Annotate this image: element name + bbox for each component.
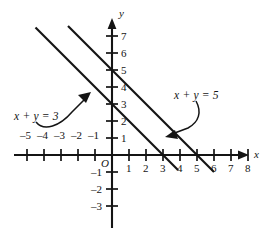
- x-tick-label-4: 4: [177, 163, 183, 174]
- x-tick-label--1: –1: [88, 130, 99, 141]
- annotation-arrowhead-left: [78, 92, 91, 103]
- x-tick-label-7: 7: [228, 163, 234, 174]
- y-tick-label-1: 1: [121, 133, 127, 144]
- y-tick-label--1: –1: [91, 167, 102, 178]
- y-tick-label-3: 3: [121, 99, 127, 110]
- x-tick-label--2: –2: [71, 130, 82, 141]
- x-tick-label-8: 8: [245, 163, 251, 174]
- x-tick-label-3: 3: [160, 163, 166, 174]
- x-tick-label-6: 6: [211, 163, 217, 174]
- annotation-arrow-right: [172, 101, 199, 134]
- x-tick-label--5: –5: [20, 130, 31, 141]
- y-axis-label: y: [119, 8, 124, 19]
- x-tick-label-1: 1: [126, 163, 132, 174]
- x-tick-label-2: 2: [143, 163, 149, 174]
- y-tick-label-2: 2: [121, 116, 127, 127]
- x-tick-label--4: –4: [37, 130, 48, 141]
- line-x-plus-y-equals-3: [36, 28, 179, 171]
- annotation-label-line-1: x + y = 3: [14, 111, 59, 123]
- y-tick-label--2: –2: [91, 184, 102, 195]
- x-tick-label-5: 5: [194, 163, 200, 174]
- x-tick-label--3: –3: [54, 130, 65, 141]
- y-tick-label-4: 4: [121, 82, 127, 93]
- y-tick-label-6: 6: [121, 48, 127, 59]
- coordinate-plane-figure: y x O –5 –4 –3 –2 –1 1 2 3 4 5 6 7 8 1 2…: [0, 0, 275, 239]
- y-tick-label-7: 7: [121, 31, 127, 42]
- y-tick-label--3: –3: [91, 201, 102, 212]
- y-tick-label-5: 5: [121, 65, 127, 76]
- origin-label: O: [101, 158, 109, 169]
- annotation-label-line-2: x + y = 5: [174, 90, 219, 102]
- annotation-arrowhead-right: [165, 130, 178, 139]
- y-axis-arrowhead: [108, 18, 117, 29]
- x-axis-label: x: [254, 149, 259, 160]
